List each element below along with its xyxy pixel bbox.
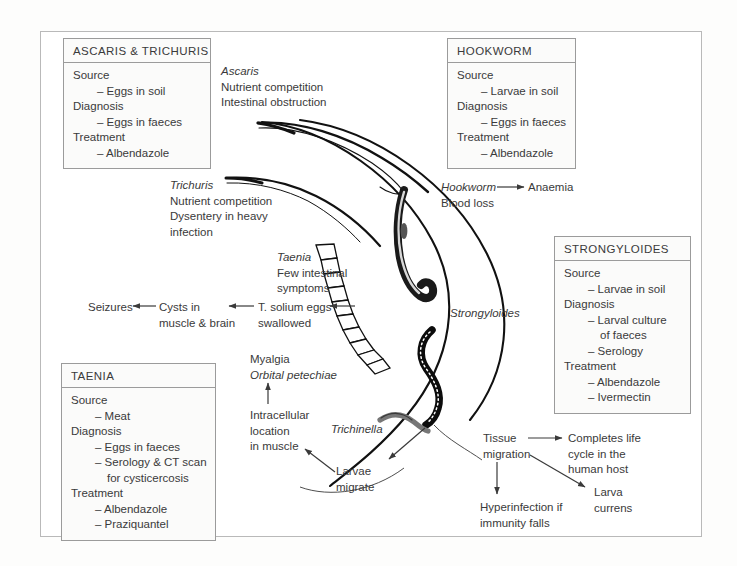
infobox-line: – Eggs in soil xyxy=(73,84,201,100)
infobox-line: – Larvae in soil xyxy=(564,282,681,298)
hookworm-name: Hookworm xyxy=(441,180,496,196)
infobox-ascaris-trichuris: ASCARIS & TRICHURIS Source – Eggs in soi… xyxy=(63,38,211,169)
infobox-body: Source – Larvae in soil Diagnosis – Eggs… xyxy=(448,63,575,168)
infobox-line: – Albendazole xyxy=(564,375,681,391)
infobox-title: STRONGYLOIDES xyxy=(555,237,690,261)
hyperinfection-line-1: Hyperinfection if xyxy=(480,500,562,516)
intracell-line-1: Intracellular xyxy=(250,408,309,424)
infobox-line: Diagnosis xyxy=(564,297,681,313)
infobox-body: Source – Meat Diagnosis – Eggs in faeces… xyxy=(62,388,215,540)
cysts-line-1: Cysts in xyxy=(159,300,235,316)
infobox-line: – Ivermectin xyxy=(564,390,681,406)
infobox-line: – Serology & CT scan xyxy=(71,455,206,471)
annotation-tsolium-eggs: T. solium eggs swallowed xyxy=(258,300,332,331)
annotation-cysts: Cysts in muscle & brain xyxy=(159,300,235,331)
annotation-hookworm: Hookworm Blood loss xyxy=(441,180,496,211)
cysts-line-2: muscle & brain xyxy=(159,316,235,332)
larva-currens-line-2: currens xyxy=(594,501,632,517)
annotation-myalgia: Myalgia Orbital petechiae xyxy=(250,352,337,383)
infobox-title: HOOKWORM xyxy=(448,39,575,63)
completes-line-2: cycle in the xyxy=(568,447,641,463)
annotation-ascaris: Ascaris Nutrient competition Intestinal … xyxy=(221,64,326,111)
annotation-taenia: Taenia Few intestinal symptoms xyxy=(277,250,347,297)
infobox-line: Source xyxy=(71,393,206,409)
infobox-line: Treatment xyxy=(564,359,681,375)
infobox-line: – Praziquantel xyxy=(71,517,206,533)
infobox-line: Source xyxy=(564,266,681,282)
annotation-strongyloides: Strongyloides xyxy=(450,306,520,322)
larva-currens-line-1: Larva xyxy=(594,485,632,501)
infobox-hookworm: HOOKWORM Source – Larvae in soil Diagnos… xyxy=(447,38,576,169)
diagram-page: ASCARIS & TRICHURIS Source – Eggs in soi… xyxy=(0,0,737,566)
infobox-line: – Meat xyxy=(71,409,206,425)
infobox-strongyloides: STRONGYLOIDES Source – Larvae in soil Di… xyxy=(554,236,691,414)
infobox-line: – Eggs in faeces xyxy=(73,115,201,131)
taenia-name: Taenia xyxy=(277,250,347,266)
annotation-completes-life-cycle: Completes life cycle in the human host xyxy=(568,431,641,478)
infobox-line: Diagnosis xyxy=(457,99,566,115)
trichuris-effect-2: Dysentery in heavy xyxy=(170,209,272,225)
infobox-taenia: TAENIA Source – Meat Diagnosis – Eggs in… xyxy=(61,363,216,541)
annotation-larvae-migrate: Larvae migrate xyxy=(336,464,374,495)
infobox-line: – Albendazole xyxy=(71,502,206,518)
completes-line-3: human host xyxy=(568,462,641,478)
intracell-line-2: location xyxy=(250,424,309,440)
myalgia-text: Myalgia xyxy=(250,352,337,368)
infobox-line: Diagnosis xyxy=(73,99,201,115)
infobox-line: – Larval culture xyxy=(564,313,681,329)
infobox-line: Treatment xyxy=(457,130,566,146)
ascaris-effect-2: Intestinal obstruction xyxy=(221,95,326,111)
annotation-tissue-migration: Tissue migration xyxy=(483,431,530,462)
infobox-line: – Serology xyxy=(564,344,681,360)
ascaris-name: Ascaris xyxy=(221,64,326,80)
infobox-line: – Eggs in faeces xyxy=(457,115,566,131)
infobox-line: Source xyxy=(457,68,566,84)
annotation-trichinella: Trichinella xyxy=(331,422,383,438)
annotation-intracellular-location: Intracellular location in muscle xyxy=(250,408,309,455)
orbital-petechiae-text: Orbital petechiae xyxy=(250,368,337,384)
infobox-line: of faeces xyxy=(564,328,681,344)
hookworm-effect-1: Blood loss xyxy=(441,196,496,212)
taenia-effect-1: Few intestinal xyxy=(277,266,347,282)
annotation-larva-currens: Larva currens xyxy=(594,485,632,516)
infobox-line: Source xyxy=(73,68,201,84)
infobox-title: TAENIA xyxy=(62,364,215,388)
infobox-line: – Eggs in faeces xyxy=(71,440,206,456)
completes-line-1: Completes life xyxy=(568,431,641,447)
tsolium-line-2: swallowed xyxy=(258,316,332,332)
infobox-body: Source – Larvae in soil Diagnosis – Larv… xyxy=(555,261,690,413)
larvae-migrate-line-2: migrate xyxy=(336,480,374,496)
infobox-line: Diagnosis xyxy=(71,424,206,440)
infobox-line: – Larvae in soil xyxy=(457,84,566,100)
tissue-line-1: Tissue xyxy=(483,431,530,447)
annotation-anaemia: Anaemia xyxy=(528,180,573,196)
tsolium-line-1: T. solium eggs xyxy=(258,300,332,316)
trichuris-effect-1: Nutrient competition xyxy=(170,194,272,210)
infobox-line: – Albendazole xyxy=(457,146,566,162)
infobox-line: for cysticercosis xyxy=(71,471,206,487)
infobox-line: Treatment xyxy=(73,130,201,146)
taenia-effect-2: symptoms xyxy=(277,281,347,297)
trichuris-name: Trichuris xyxy=(170,178,272,194)
infobox-title: ASCARIS & TRICHURIS xyxy=(64,39,210,63)
trichuris-effect-3: infection xyxy=(170,225,272,241)
infobox-line: Treatment xyxy=(71,486,206,502)
annotation-seizures: Seizures xyxy=(88,300,133,316)
larvae-migrate-line-1: Larvae xyxy=(336,464,374,480)
tissue-line-2: migration xyxy=(483,447,530,463)
intracell-line-3: in muscle xyxy=(250,439,309,455)
ascaris-effect-1: Nutrient competition xyxy=(221,80,326,96)
hyperinfection-line-2: immunity falls xyxy=(480,516,562,532)
infobox-line: – Albendazole xyxy=(73,146,201,162)
infobox-body: Source – Eggs in soil Diagnosis – Eggs i… xyxy=(64,63,210,168)
annotation-trichuris: Trichuris Nutrient competition Dysentery… xyxy=(170,178,272,240)
annotation-hyperinfection: Hyperinfection if immunity falls xyxy=(480,500,562,531)
